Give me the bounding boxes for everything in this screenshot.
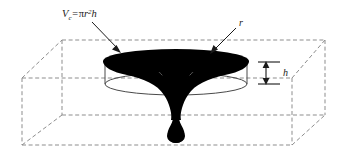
formula-equals: = xyxy=(72,8,79,19)
radius-leader xyxy=(210,28,236,54)
box-edge-depth-bottom-right xyxy=(292,115,325,145)
box-edge-depth-top-right xyxy=(292,40,325,78)
formula-h: h xyxy=(92,8,97,19)
vortex-bottom-bulb xyxy=(167,129,185,143)
vortex-cylinder-diagram: Vc=πr2h r h xyxy=(0,0,342,159)
formula-arrow-head-icon xyxy=(112,45,121,53)
formula-leader-line xyxy=(92,22,119,50)
formula-leader xyxy=(92,22,121,53)
formula-label: Vc=πr2h xyxy=(62,8,97,22)
box-edge-depth-bottom-left xyxy=(22,115,62,145)
vortex-funnel xyxy=(103,49,249,143)
radius-label: r xyxy=(239,17,243,28)
height-label: h xyxy=(283,67,288,78)
box-edge-depth-top-left xyxy=(22,40,62,78)
figure-container: Vc=πr2h r h xyxy=(0,0,342,159)
height-dimension xyxy=(258,61,280,85)
